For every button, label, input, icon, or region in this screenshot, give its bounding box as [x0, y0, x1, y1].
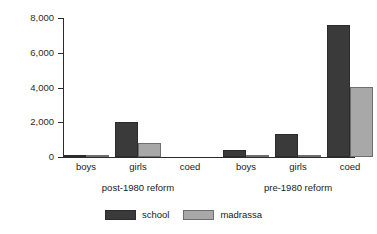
bar-school	[275, 134, 298, 157]
y-axis-tick-label: 4,000	[30, 83, 54, 93]
category-label: coed	[320, 161, 377, 173]
legend-label-madrassa: madrassa	[220, 209, 262, 220]
legend-entry-madrassa: madrassa	[183, 209, 262, 220]
y-axis-tick-label-wrap: 2,000	[0, 117, 54, 127]
y-axis-tick-label-wrap: 4,000	[0, 83, 54, 93]
y-axis-tick-label: 0	[49, 152, 54, 162]
bar-school	[115, 122, 138, 157]
legend-label-school: school	[142, 209, 169, 220]
bar-group	[167, 18, 213, 157]
y-axis-tick-label: 8,000	[30, 13, 54, 23]
group-label: pre-1980 reform	[223, 182, 373, 194]
group-label: post-1980 reform	[63, 182, 213, 194]
bar-madrassa	[298, 155, 321, 157]
x-axis-line	[63, 157, 355, 158]
y-axis-tick-label: 2,000	[30, 117, 54, 127]
bar-madrassa	[350, 87, 373, 157]
bar-group	[223, 18, 269, 157]
category-label: girls	[108, 161, 168, 173]
bar-school	[327, 25, 350, 157]
bar-madrassa	[246, 155, 269, 157]
y-axis-tick-label-wrap: 0	[0, 152, 54, 162]
legend-swatch-madrassa-icon	[183, 210, 214, 220]
category-label: boys	[56, 161, 116, 173]
bar-group	[327, 18, 373, 157]
y-axis-tick-label-wrap: 8,000	[0, 13, 54, 23]
bar-school	[63, 155, 86, 157]
category-label: boys	[216, 161, 276, 173]
y-axis-tick	[58, 157, 63, 158]
legend-swatch-school-icon	[105, 210, 136, 220]
y-axis-tick-label: 6,000	[30, 48, 54, 58]
category-label: coed	[160, 161, 220, 173]
bar-madrassa	[86, 155, 109, 157]
legend-entry-school: school	[105, 209, 169, 220]
bar-group	[63, 18, 109, 157]
y-axis-tick-label-wrap: 6,000	[0, 48, 54, 58]
bar-school	[223, 150, 246, 157]
category-label: girls	[268, 161, 328, 173]
bar-madrassa	[138, 143, 161, 157]
bar-group	[115, 18, 161, 157]
chart-legend: school madrassa	[0, 209, 367, 220]
plot-area	[63, 18, 353, 157]
bar-group	[275, 18, 321, 157]
